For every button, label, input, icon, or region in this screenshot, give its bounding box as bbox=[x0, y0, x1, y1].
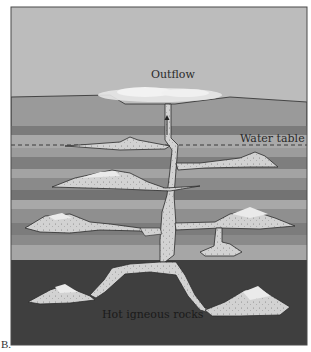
label-hot-igneous-rocks: Hot igneous rocks bbox=[102, 308, 204, 321]
layer-band bbox=[11, 235, 307, 245]
layer-band bbox=[11, 169, 307, 178]
label-water-table: Water table bbox=[240, 132, 305, 145]
geothermal-cross-section-diagram bbox=[0, 0, 311, 352]
label-outflow: Outflow bbox=[151, 68, 195, 81]
layer-band bbox=[11, 245, 307, 260]
panel-letter: B. bbox=[1, 338, 11, 350]
layer-band bbox=[11, 190, 307, 200]
layer-band bbox=[11, 200, 307, 209]
